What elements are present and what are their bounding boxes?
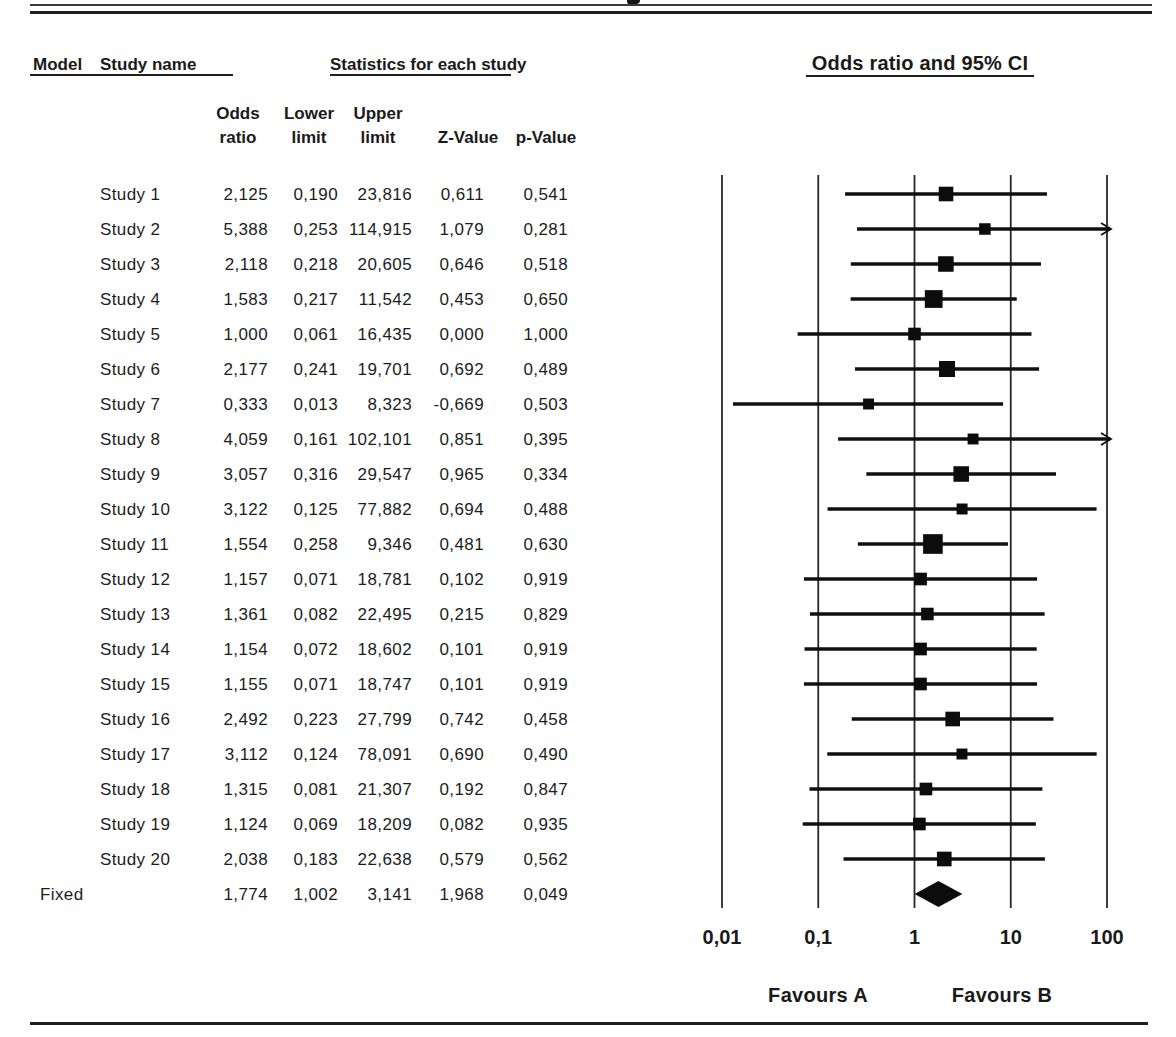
lower-limit-value: 1,002	[274, 885, 338, 905]
effect-square	[953, 466, 969, 482]
lower-limit-subheader-line2: limit	[292, 128, 327, 147]
z-value: 0,481	[418, 535, 484, 555]
z-value: 0,694	[418, 500, 484, 520]
effect-square	[863, 399, 874, 410]
effect-square	[914, 643, 927, 656]
p-value: 0,650	[502, 290, 568, 310]
p-value: 0,518	[502, 255, 568, 275]
z-value: 0,690	[418, 745, 484, 765]
bottom-rule	[30, 1022, 1148, 1025]
study-name: Study 13	[100, 605, 208, 625]
lower-limit-value: 0,258	[274, 535, 338, 555]
table-row: Study 25,3880,253114,9151,0790,281	[0, 212, 700, 247]
study-name: Study 1	[100, 185, 208, 205]
p-value: 0,935	[502, 815, 568, 835]
effect-square	[945, 712, 960, 727]
z-value: 1,968	[418, 885, 484, 905]
p-value: 0,488	[502, 500, 568, 520]
favours-left-label: Favours A	[768, 984, 868, 1007]
odds-ratio-value: 1,361	[200, 605, 268, 625]
z-value: 0,000	[418, 325, 484, 345]
upper-limit-value: 3,141	[338, 885, 412, 905]
statistics-underline	[330, 74, 511, 76]
statistics-table: Study 12,1250,19023,8160,6110,541Study 2…	[0, 177, 700, 922]
study-name: Study 7	[100, 395, 208, 415]
odds-ratio-subheader-line1: Odds	[216, 104, 259, 123]
upper-limit-value: 21,307	[338, 780, 412, 800]
lower-limit-value: 0,081	[274, 780, 338, 800]
upper-limit-value: 29,547	[338, 465, 412, 485]
odds-ratio-value: 1,000	[200, 325, 268, 345]
table-row: Study 41,5830,21711,5420,4530,650	[0, 282, 700, 317]
table-row: Study 84,0590,161102,1010,8510,395	[0, 422, 700, 457]
odds-ratio-value: 2,118	[200, 255, 268, 275]
z-value: 1,079	[418, 220, 484, 240]
lower-limit-value: 0,071	[274, 675, 338, 695]
table-row: Study 70,3330,0138,323-0,6690,503	[0, 387, 700, 422]
odds-ratio-value: 2,038	[200, 850, 268, 870]
z-value: 0,742	[418, 710, 484, 730]
lower-limit-value: 0,190	[274, 185, 338, 205]
p-value: 0,503	[502, 395, 568, 415]
upper-limit-value: 18,781	[338, 570, 412, 590]
study-name: Study 9	[100, 465, 208, 485]
table-row: Study 151,1550,07118,7470,1010,919	[0, 667, 700, 702]
forest-plot-svg	[690, 160, 1176, 935]
upper-limit-value: 23,816	[338, 185, 412, 205]
z-value: 0,965	[418, 465, 484, 485]
axis-tick-label: 100	[1090, 926, 1123, 949]
effect-square	[968, 434, 979, 445]
p-value: 0,458	[502, 710, 568, 730]
effect-square	[914, 573, 927, 586]
lower-limit-value: 0,183	[274, 850, 338, 870]
table-row: Study 173,1120,12478,0910,6900,490	[0, 737, 700, 772]
odds-ratio-value: 2,177	[200, 360, 268, 380]
p-value: 0,334	[502, 465, 568, 485]
table-row: Study 181,3150,08121,3070,1920,847	[0, 772, 700, 807]
study-name-column-header: Study name	[100, 55, 196, 75]
p-value: 0,489	[502, 360, 568, 380]
study-name: Study 2	[100, 220, 208, 240]
effect-square	[938, 256, 954, 272]
table-row: Study 32,1180,21820,6050,6460,518	[0, 247, 700, 282]
odds-ratio-value: 5,388	[200, 220, 268, 240]
odds-ratio-subheader: Oddsratio	[205, 102, 271, 150]
p-value: 0,919	[502, 570, 568, 590]
model-value: Fixed	[40, 885, 100, 905]
table-row: Study 131,3610,08222,4950,2150,829	[0, 597, 700, 632]
lower-limit-value: 0,072	[274, 640, 338, 660]
p-value: 1,000	[502, 325, 568, 345]
lower-limit-value: 0,124	[274, 745, 338, 765]
table-row: Study 121,1570,07118,7810,1020,919	[0, 562, 700, 597]
upper-limit-value: 22,495	[338, 605, 412, 625]
study-name: Study 5	[100, 325, 208, 345]
p-value: 0,281	[502, 220, 568, 240]
effect-square	[979, 223, 991, 235]
effect-square	[913, 818, 926, 831]
table-row: Study 202,0380,18322,6380,5790,562	[0, 842, 700, 877]
effect-square	[939, 361, 955, 377]
p-value: 0,049	[502, 885, 568, 905]
z-value: 0,692	[418, 360, 484, 380]
axis-tick-label: 1	[909, 926, 920, 949]
lower-limit-value: 0,241	[274, 360, 338, 380]
model-column-header: Model	[33, 55, 82, 75]
z-value-subheader: Z-Value	[430, 126, 506, 150]
p-value-subheader: p-Value	[508, 126, 584, 150]
study-name: Study 20	[100, 850, 208, 870]
lower-limit-value: 0,218	[274, 255, 338, 275]
odds-ratio-value: 1,124	[200, 815, 268, 835]
table-row: Study 62,1770,24119,7010,6920,489	[0, 352, 700, 387]
table-row: Study 191,1240,06918,2090,0820,935	[0, 807, 700, 842]
effect-square	[914, 678, 927, 691]
axis-tick-label: 0,01	[703, 926, 742, 949]
p-value: 0,490	[502, 745, 568, 765]
z-value: 0,101	[418, 675, 484, 695]
lower-limit-value: 0,217	[274, 290, 338, 310]
odds-ratio-value: 2,125	[200, 185, 268, 205]
upper-limit-value: 27,799	[338, 710, 412, 730]
p-value: 0,630	[502, 535, 568, 555]
p-value: 0,919	[502, 640, 568, 660]
study-name: Study 18	[100, 780, 208, 800]
table-row: Fixed1,7741,0023,1411,9680,049	[0, 877, 700, 912]
